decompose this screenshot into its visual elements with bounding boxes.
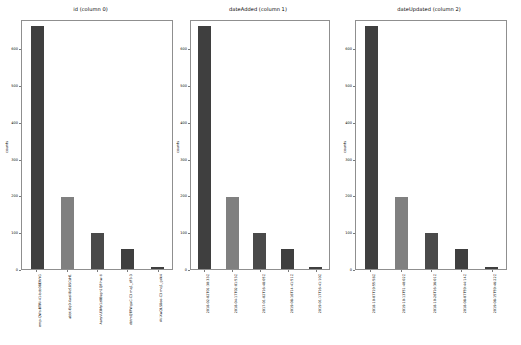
x-axis-tick-label: 2019-10-13T51:40:02Z (402, 274, 406, 342)
bar-series (356, 21, 506, 269)
y-axis-tick (353, 49, 355, 50)
x-axis-tick (401, 270, 402, 272)
y-axis-tick-label: 0 (339, 268, 352, 272)
bar (485, 267, 498, 269)
panel-title: dateUpdated (column 2) (345, 6, 513, 12)
y-axis-tick (353, 86, 355, 87)
x-axis-tick (492, 270, 493, 272)
y-axis-tick-label: 100 (339, 231, 352, 235)
chart-panel: dateUpdated (column 2)counts010020030040… (0, 0, 521, 345)
y-axis-tick-label: 200 (339, 194, 352, 198)
y-axis-tick-label: 500 (339, 84, 352, 88)
x-axis-tick (370, 270, 371, 272)
figure-canvas: id (column 0)counts0100200300400500600em… (0, 0, 521, 345)
y-axis-tick-label: 400 (339, 121, 352, 125)
bar (365, 26, 378, 269)
y-axis-tick (353, 123, 355, 124)
y-axis-tick-label: 600 (339, 47, 352, 51)
x-axis-tick-label: 2018-10-26T16:36:01Z (433, 274, 437, 342)
plot-area (355, 20, 507, 270)
x-axis-tick-label: 2018-10-07T19:55:58Z (372, 274, 376, 342)
y-axis-label: counts (343, 141, 347, 153)
bar (395, 197, 408, 269)
y-axis-tick (353, 233, 355, 234)
y-axis-tick (353, 270, 355, 271)
x-axis-tick (461, 270, 462, 272)
bar (455, 249, 468, 269)
x-axis-tick-label: 2019-08-15T59:46:22Z (493, 274, 497, 342)
y-axis-tick-label: 300 (339, 158, 352, 162)
x-axis-tick (431, 270, 432, 272)
x-axis-tick-label: 2018-08-07T59:44:14Z (463, 274, 467, 342)
y-axis-tick (353, 196, 355, 197)
y-axis-tick (353, 160, 355, 161)
bar (425, 233, 438, 269)
